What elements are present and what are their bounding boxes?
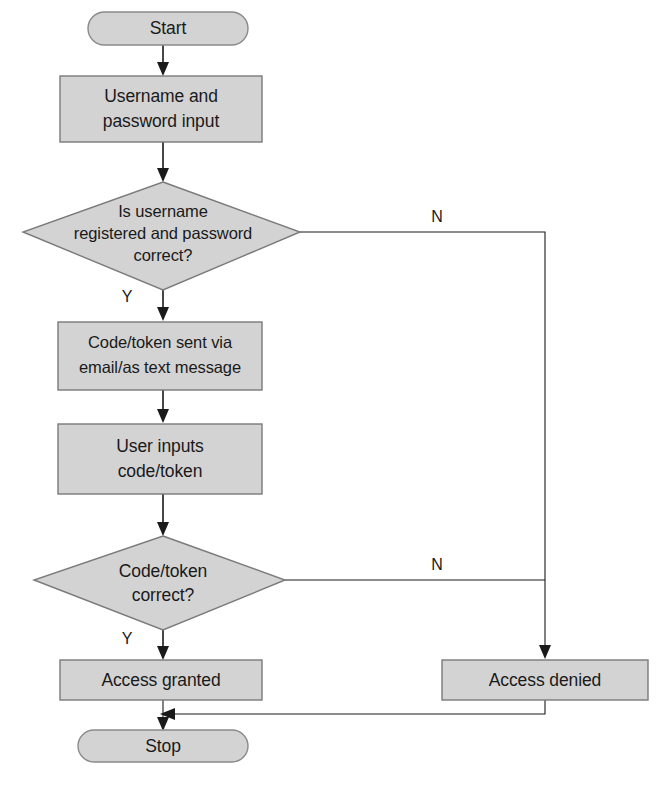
connector-credentials-input-to-credentials-check bbox=[157, 142, 169, 182]
branch-label-credentials-no: N bbox=[431, 208, 443, 225]
node-credentials-input-label-line2: password input bbox=[103, 111, 220, 131]
node-start[interactable]: Start bbox=[88, 12, 248, 45]
flowchart-svg: Start Username and password input Is use… bbox=[0, 0, 671, 791]
node-access-granted-label: Access granted bbox=[101, 670, 220, 690]
connector-credentials-check-no bbox=[300, 232, 551, 659]
connector-access-denied-to-stop bbox=[160, 700, 545, 720]
node-token-sent-label-line1: Code/token sent via bbox=[88, 333, 233, 351]
node-token-input-label-line2: code/token bbox=[118, 461, 203, 481]
connector-credentials-check-yes bbox=[157, 290, 169, 321]
node-credentials-check[interactable]: Is username registered and password corr… bbox=[23, 182, 300, 290]
node-credentials-check-label-line2: registered and password bbox=[74, 224, 252, 242]
connector-token-input-to-token-check bbox=[157, 494, 169, 536]
connector-start-to-credentials-input bbox=[157, 45, 169, 76]
node-token-check-label-line2: correct? bbox=[132, 585, 195, 605]
connector-token-check-yes bbox=[157, 630, 169, 660]
node-credentials-check-label-line3: correct? bbox=[134, 246, 193, 264]
node-start-label: Start bbox=[150, 18, 187, 38]
node-access-denied[interactable]: Access denied bbox=[442, 660, 648, 700]
node-token-sent[interactable]: Code/token sent via email/as text messag… bbox=[58, 322, 262, 390]
branch-label-token-yes: Y bbox=[122, 630, 133, 647]
node-credentials-check-label-line1: Is username bbox=[118, 202, 208, 220]
node-stop[interactable]: Stop bbox=[78, 730, 248, 762]
node-token-sent-label-line2: email/as text message bbox=[79, 358, 241, 376]
connector-token-sent-to-token-input bbox=[157, 390, 169, 423]
node-stop-label: Stop bbox=[145, 736, 181, 756]
node-token-check[interactable]: Code/token correct? bbox=[34, 536, 285, 630]
node-credentials-input-label-line1: Username and bbox=[104, 86, 218, 106]
node-token-check-label-line1: Code/token bbox=[119, 561, 208, 581]
node-access-granted[interactable]: Access granted bbox=[60, 660, 262, 700]
node-credentials-input[interactable]: Username and password input bbox=[60, 76, 262, 142]
node-token-input[interactable]: User inputs code/token bbox=[58, 424, 262, 494]
branch-label-credentials-yes: Y bbox=[122, 288, 133, 305]
branch-label-token-no: N bbox=[431, 556, 443, 573]
node-token-input-label-line1: User inputs bbox=[116, 436, 204, 456]
node-access-denied-label: Access denied bbox=[489, 670, 602, 690]
flowchart-canvas: Start Username and password input Is use… bbox=[0, 0, 671, 791]
